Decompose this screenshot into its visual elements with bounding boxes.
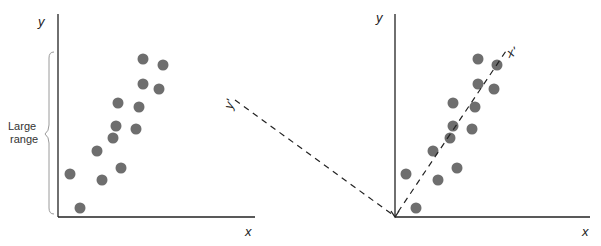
scatter-point bbox=[473, 54, 484, 65]
rotated-y-axis bbox=[235, 100, 393, 215]
scatter-point bbox=[448, 98, 459, 109]
left-panel: y x Large range bbox=[8, 14, 255, 239]
scatter-point bbox=[401, 169, 412, 180]
left-scatter-points bbox=[65, 54, 169, 214]
scatter-point bbox=[448, 121, 459, 132]
rotated-x-label: x' bbox=[504, 43, 519, 61]
right-x-label: x bbox=[581, 224, 589, 239]
scatter-point bbox=[158, 60, 169, 71]
brace-label-line2: range bbox=[10, 133, 38, 145]
scatter-point bbox=[467, 124, 478, 135]
scatter-point bbox=[65, 169, 76, 180]
scatter-point bbox=[134, 102, 145, 113]
scatter-point bbox=[411, 203, 422, 214]
brace-label-line1: Large bbox=[8, 120, 36, 132]
rotated-y-label: y' bbox=[220, 97, 238, 112]
range-brace-icon bbox=[45, 52, 54, 214]
scatter-point bbox=[92, 146, 103, 157]
scatter-point bbox=[116, 163, 127, 174]
scatter-point bbox=[138, 79, 149, 90]
scatter-point bbox=[433, 175, 444, 186]
scatter-point bbox=[470, 102, 481, 113]
scatter-point bbox=[452, 163, 463, 174]
right-y-label: y bbox=[375, 10, 384, 25]
right-scatter-points bbox=[401, 54, 503, 214]
scatter-point bbox=[489, 84, 500, 95]
scatter-point bbox=[75, 203, 86, 214]
scatter-point bbox=[111, 121, 122, 132]
scatter-point bbox=[108, 133, 119, 144]
left-y-label: y bbox=[37, 14, 46, 29]
scatter-point bbox=[131, 124, 142, 135]
scatter-point bbox=[138, 54, 149, 65]
scatter-point bbox=[113, 98, 124, 109]
pca-diagram: y x Large range y' y x x' bbox=[0, 0, 601, 246]
scatter-point bbox=[473, 79, 484, 90]
scatter-point bbox=[154, 84, 165, 95]
scatter-point bbox=[97, 175, 108, 186]
right-panel: y x x' bbox=[375, 10, 590, 239]
left-x-label: x bbox=[244, 224, 252, 239]
